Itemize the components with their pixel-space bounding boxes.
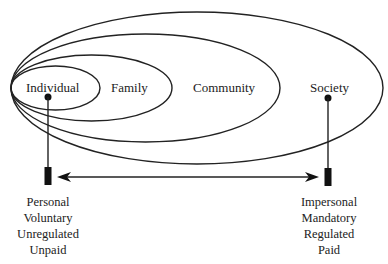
right-pole-marker (325, 168, 332, 186)
left-pole-attributes: Personal Voluntary Unregulated Unpaid (0, 194, 98, 258)
attr-voluntary: Voluntary (0, 210, 98, 226)
attr-impersonal: Impersonal (279, 194, 379, 210)
label-society: Society (310, 80, 349, 95)
label-community: Community (193, 80, 255, 95)
label-individual: Individual (26, 80, 79, 95)
right-pole-attributes: Impersonal Mandatory Regulated Paid (279, 194, 379, 258)
attr-unregulated: Unregulated (0, 226, 98, 242)
label-family: Family (111, 80, 148, 95)
attr-regulated: Regulated (279, 226, 379, 242)
left-pole-marker (45, 167, 52, 185)
attr-personal: Personal (0, 194, 98, 210)
attr-mandatory: Mandatory (279, 210, 379, 226)
attr-paid: Paid (279, 242, 379, 258)
attr-unpaid: Unpaid (0, 242, 98, 258)
